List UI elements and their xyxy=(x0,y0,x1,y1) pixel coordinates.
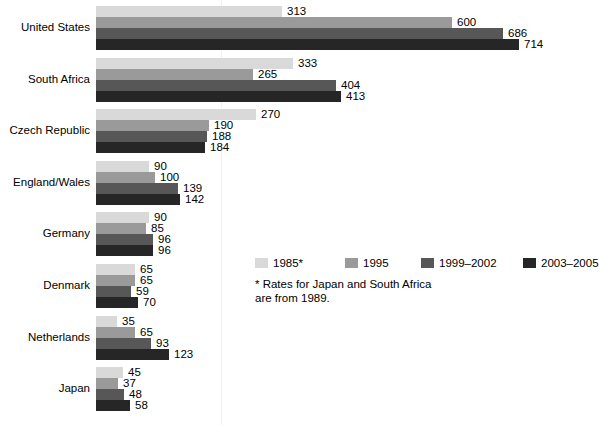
legend-swatch xyxy=(345,258,358,268)
bar-fill xyxy=(96,349,169,360)
bar: 188 xyxy=(96,131,207,142)
bar-value-label: 184 xyxy=(210,141,229,154)
bar: 37 xyxy=(96,378,118,389)
bar: 686 xyxy=(96,28,503,39)
bar: 65 xyxy=(96,264,135,275)
bar: 142 xyxy=(96,194,180,205)
bar-fill xyxy=(96,120,209,131)
bar-fill xyxy=(96,212,149,223)
category-label: Netherlands xyxy=(0,331,90,344)
bar-fill xyxy=(96,142,205,153)
bar-value-label: 333 xyxy=(298,57,317,70)
bar-value-label: 413 xyxy=(346,90,365,103)
bar-fill xyxy=(96,39,519,50)
bar: 184 xyxy=(96,142,205,153)
bar-fill xyxy=(96,338,151,349)
bar: 190 xyxy=(96,120,209,131)
chart-footnote: * Rates for Japan and South Africa are f… xyxy=(255,278,555,305)
bar-fill xyxy=(96,275,135,286)
category-label: United States xyxy=(0,21,90,34)
legend-label: 1999–2002 xyxy=(439,256,497,270)
bar: 96 xyxy=(96,245,153,256)
bar: 65 xyxy=(96,327,135,338)
bar: 48 xyxy=(96,389,124,400)
category-label: Germany xyxy=(0,227,90,240)
bar-fill xyxy=(96,316,117,327)
bar-fill xyxy=(96,327,135,338)
bar: 313 xyxy=(96,6,282,17)
bar-fill xyxy=(96,183,178,194)
category-label: England/Wales xyxy=(0,176,90,189)
legend-label: 1985* xyxy=(273,256,303,270)
bar-value-label: 58 xyxy=(135,399,148,412)
bar-fill xyxy=(96,245,153,256)
legend-swatch xyxy=(523,258,536,268)
bar: 65 xyxy=(96,275,135,286)
bar: 70 xyxy=(96,297,138,308)
bar: 96 xyxy=(96,234,153,245)
bar-value-label: 142 xyxy=(185,193,204,206)
bar-fill xyxy=(96,223,146,234)
bar-fill xyxy=(96,264,135,275)
bar-value-label: 714 xyxy=(524,38,543,51)
bar-fill xyxy=(96,286,131,297)
bar: 413 xyxy=(96,91,341,102)
bar: 58 xyxy=(96,400,130,411)
legend-swatch xyxy=(421,258,434,268)
bar-value-label: 123 xyxy=(174,348,193,361)
bar: 59 xyxy=(96,286,131,297)
bar-fill xyxy=(96,6,282,17)
legend-label: 1995 xyxy=(363,256,389,270)
bar: 139 xyxy=(96,183,178,194)
category-label: Japan xyxy=(0,382,90,395)
bar: 90 xyxy=(96,212,149,223)
bar: 85 xyxy=(96,223,146,234)
bar-value-label: 270 xyxy=(261,108,280,121)
bar-fill xyxy=(96,297,138,308)
category-label: South Africa xyxy=(0,73,90,86)
bar-fill xyxy=(96,28,503,39)
bar: 93 xyxy=(96,338,151,349)
bar-fill xyxy=(96,234,153,245)
bar-fill xyxy=(96,400,130,411)
legend-label: 2003–2005 xyxy=(541,256,599,270)
bar: 714 xyxy=(96,39,519,50)
bar: 100 xyxy=(96,172,155,183)
bar-fill xyxy=(96,69,253,80)
bar: 45 xyxy=(96,367,123,378)
bar-fill xyxy=(96,378,118,389)
bar-fill xyxy=(96,172,155,183)
bar: 123 xyxy=(96,349,169,360)
bar-fill xyxy=(96,389,124,400)
category-label: Denmark xyxy=(0,279,90,292)
bar-fill xyxy=(96,194,180,205)
bar: 404 xyxy=(96,80,336,91)
chart-legend: 1985*19951999–20022003–2005 xyxy=(255,256,574,270)
bar-fill xyxy=(96,17,452,28)
bar-value-label: 96 xyxy=(158,244,171,257)
bar: 35 xyxy=(96,316,117,327)
bar: 265 xyxy=(96,69,253,80)
legend-swatch xyxy=(255,258,268,268)
bar-value-label: 70 xyxy=(143,296,156,309)
bar: 90 xyxy=(96,161,149,172)
category-label: Czech Republic xyxy=(0,124,90,137)
bar-fill xyxy=(96,80,336,91)
bar-fill xyxy=(96,91,341,102)
bar: 600 xyxy=(96,17,452,28)
bar-fill xyxy=(96,131,207,142)
bar-fill xyxy=(96,367,123,378)
bar-fill xyxy=(96,161,149,172)
